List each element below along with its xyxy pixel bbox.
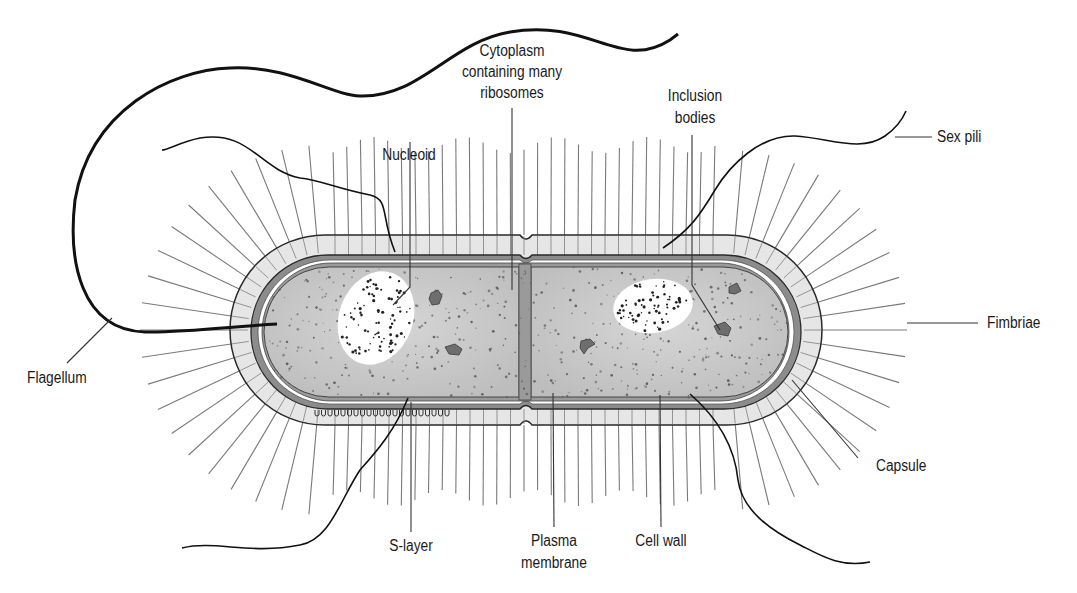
label-cell-wall: Cell wall [618, 530, 704, 551]
label-cytoplasm-line1: Cytoplasm [456, 40, 568, 61]
septum [519, 264, 531, 400]
label-cytoplasm-line3: ribosomes [456, 82, 568, 103]
label-sex-pili: Sex pili [937, 126, 981, 147]
label-inclusion-bodies-line1: Inclusion [652, 85, 738, 106]
label-inclusion-bodies-line2: bodies [652, 107, 738, 128]
label-fimbriae: Fimbriae [987, 312, 1041, 333]
bacterial-cell-diagram: Nucleoid Cytoplasm containing many ribos… [0, 0, 1077, 593]
label-plasma-membrane-line1: Plasma [511, 530, 597, 551]
label-flagellum: Flagellum [27, 367, 87, 388]
label-cytoplasm-line2: containing many [456, 61, 568, 82]
label-s-layer: S-layer [377, 535, 446, 556]
label-capsule: Capsule [876, 455, 926, 476]
label-nucleoid: Nucleoid [370, 144, 447, 165]
label-plasma-membrane-line2: membrane [511, 552, 597, 573]
